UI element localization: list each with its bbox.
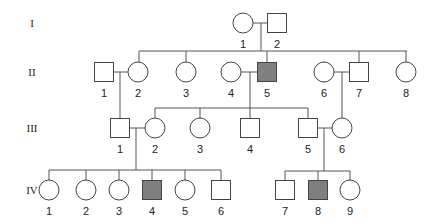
generation-labels: IIIIIIIV — [26, 17, 38, 196]
individual-II-5: 5 — [258, 63, 277, 100]
individual-IV-8: 8 — [309, 181, 328, 218]
male-square — [268, 14, 287, 33]
female-circle — [221, 62, 241, 82]
generation-label: II — [28, 66, 36, 78]
individual-II-7: 7 — [350, 63, 369, 100]
female-circle — [145, 118, 165, 138]
individual-IV-7: 7 — [276, 181, 295, 218]
individual-II-2: 2 — [128, 62, 148, 99]
individual-II-6: 6 — [314, 62, 334, 99]
individual-number: 7 — [282, 205, 288, 217]
pedigree-chart: IIIIIIIV 1212345678123456123456789 — [0, 0, 439, 224]
affected-male-square — [309, 181, 328, 200]
male-square — [299, 119, 318, 138]
individual-number: 2 — [152, 143, 158, 155]
individual-number: 3 — [183, 87, 189, 99]
individual-number: 1 — [46, 205, 52, 217]
generation-label: IV — [26, 184, 38, 196]
female-circle — [39, 180, 59, 200]
female-circle — [396, 62, 416, 82]
male-square — [111, 119, 130, 138]
female-circle — [128, 62, 148, 82]
individual-number: 2 — [83, 205, 89, 217]
female-circle — [175, 180, 195, 200]
female-circle — [190, 118, 210, 138]
individual-III-3: 3 — [190, 118, 210, 155]
individual-number: 6 — [321, 87, 327, 99]
individual-number: 6 — [339, 143, 345, 155]
female-circle — [340, 180, 360, 200]
individual-IV-2: 2 — [76, 180, 96, 217]
female-circle — [314, 62, 334, 82]
female-circle — [176, 62, 196, 82]
generation-label: I — [30, 17, 34, 29]
individual-number: 2 — [274, 38, 280, 50]
individual-number: 8 — [403, 87, 409, 99]
male-square — [276, 181, 295, 200]
individual-number: 1 — [117, 143, 123, 155]
individual-number: 1 — [240, 38, 246, 50]
individuals: 1212345678123456123456789 — [39, 13, 416, 217]
male-square — [350, 63, 369, 82]
individual-number: 3 — [116, 205, 122, 217]
individual-II-3: 3 — [176, 62, 196, 99]
individual-IV-9: 9 — [340, 180, 360, 217]
individual-number: 6 — [218, 205, 224, 217]
male-square — [212, 181, 231, 200]
individual-number: 8 — [315, 205, 321, 217]
individual-number: 2 — [135, 87, 141, 99]
individual-IV-3: 3 — [109, 180, 129, 217]
individual-III-6: 6 — [332, 118, 352, 155]
individual-II-1: 1 — [95, 63, 114, 100]
individual-number: 4 — [149, 205, 155, 217]
individual-I-2: 2 — [268, 14, 287, 51]
male-square — [95, 63, 114, 82]
individual-number: 5 — [182, 205, 188, 217]
male-square — [241, 119, 260, 138]
individual-number: 5 — [264, 87, 270, 99]
individual-number: 5 — [305, 143, 311, 155]
female-circle — [233, 13, 253, 33]
individual-IV-4: 4 — [143, 181, 162, 218]
individual-II-8: 8 — [396, 62, 416, 99]
affected-male-square — [143, 181, 162, 200]
individual-IV-1: 1 — [39, 180, 59, 217]
individual-II-4: 4 — [221, 62, 241, 99]
individual-IV-6: 6 — [212, 181, 231, 218]
individual-number: 7 — [356, 87, 362, 99]
female-circle — [109, 180, 129, 200]
individual-number: 4 — [228, 87, 234, 99]
female-circle — [76, 180, 96, 200]
individual-number: 4 — [247, 143, 253, 155]
individual-III-5: 5 — [299, 119, 318, 156]
individual-IV-5: 5 — [175, 180, 195, 217]
individual-III-2: 2 — [145, 118, 165, 155]
individual-number: 3 — [197, 143, 203, 155]
affected-male-square — [258, 63, 277, 82]
individual-III-4: 4 — [241, 119, 260, 156]
individual-number: 1 — [101, 87, 107, 99]
individual-I-1: 1 — [233, 13, 253, 50]
female-circle — [332, 118, 352, 138]
individual-III-1: 1 — [111, 119, 130, 156]
pedigree-lines — [49, 23, 407, 182]
generation-label: III — [27, 122, 38, 134]
individual-number: 9 — [347, 205, 353, 217]
